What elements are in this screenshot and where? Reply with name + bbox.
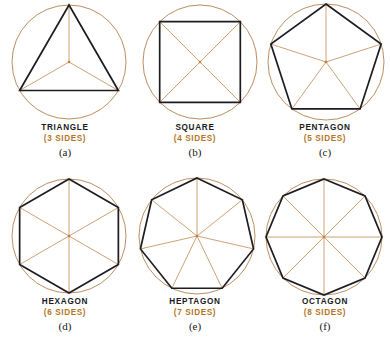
radius-line <box>283 237 324 278</box>
polygon-sides-label: (4 SIDES) <box>174 135 216 144</box>
panel-letter-label: (d) <box>42 321 88 333</box>
polygon-diagram-hexagon <box>0 174 130 299</box>
polygon-name-label: HEXAGON <box>42 298 88 307</box>
panel-letter-label: (c) <box>299 147 350 159</box>
polygon-panel-hexagon: HEXAGON(6 SIDES)(d) <box>0 174 130 348</box>
polygon-sides-label: (3 SIDES) <box>41 135 88 144</box>
center-point <box>68 235 71 238</box>
radius-line <box>271 44 326 62</box>
radius-line <box>20 208 69 237</box>
panel-letter-label: (b) <box>174 147 216 159</box>
polygon-sides-label: (6 SIDES) <box>42 309 88 318</box>
radius-line <box>197 200 242 236</box>
center-point <box>68 61 71 64</box>
polygon-panel-heptagon: HEPTAGON(7 SIDES)(e) <box>130 174 260 348</box>
center-point <box>325 61 328 64</box>
panel-letter-label: (f) <box>302 321 348 333</box>
radius-line <box>20 236 69 265</box>
polygon-caption-hexagon: HEXAGON(6 SIDES)(d) <box>42 298 88 333</box>
polygon-panel-pentagon: PENTAGON(5 SIDES)(c) <box>260 0 390 174</box>
polygon-diagram-square <box>130 0 260 125</box>
radius-line <box>326 62 360 109</box>
polygon-panel-square: SQUARE(4 SIDES)(b) <box>130 0 260 174</box>
radius-line <box>324 196 365 237</box>
radius-line <box>140 236 197 249</box>
panel-letter-label: (a) <box>41 147 88 159</box>
radius-line <box>160 62 200 102</box>
polygon-sides-label: (5 SIDES) <box>299 135 350 144</box>
polygon-name-label: TRIANGLE <box>41 124 88 133</box>
polygon-panel-triangle: TRIANGLE(3 SIDES)(a) <box>0 0 130 174</box>
polygon-diagram-triangle <box>0 0 130 125</box>
polygon-panel-octagon: OCTAGON(8 SIDES)(f) <box>260 174 390 348</box>
radius-line <box>283 196 324 237</box>
radius-line <box>69 236 118 265</box>
polygon-caption-pentagon: PENTAGON(5 SIDES)(c) <box>299 124 350 159</box>
radius-line <box>152 200 197 236</box>
radius-line <box>197 236 254 249</box>
polygon-diagram-pentagon <box>260 0 390 125</box>
polygon-diagram-heptagon <box>130 174 260 299</box>
center-point <box>323 236 326 239</box>
radius-line <box>197 236 222 288</box>
radius-line <box>172 236 197 288</box>
polygon-caption-triangle: TRIANGLE(3 SIDES)(a) <box>41 124 88 159</box>
polygon-caption-square: SQUARE(4 SIDES)(b) <box>174 124 216 159</box>
radius-line <box>200 22 240 62</box>
radius-line <box>292 62 326 109</box>
center-point <box>199 61 202 64</box>
radius-line <box>160 22 200 62</box>
polygon-figure-grid: TRIANGLE(3 SIDES)(a)SQUARE(4 SIDES)(b)PE… <box>0 0 390 356</box>
polygon-name-label: PENTAGON <box>299 124 350 133</box>
panel-letter-label: (e) <box>169 321 220 333</box>
radius-line <box>324 237 365 278</box>
radius-line <box>200 62 240 102</box>
radius-line <box>69 208 118 237</box>
polygon-name-label: OCTAGON <box>302 298 348 307</box>
center-point <box>196 235 199 238</box>
polygon-name-label: SQUARE <box>174 124 216 133</box>
polygon-name-label: HEPTAGON <box>169 298 220 307</box>
polygon-caption-heptagon: HEPTAGON(7 SIDES)(e) <box>169 298 220 333</box>
polygon-sides-label: (8 SIDES) <box>302 309 348 318</box>
polygon-caption-octagon: OCTAGON(8 SIDES)(f) <box>302 298 348 333</box>
polygon-sides-label: (7 SIDES) <box>169 309 220 318</box>
polygon-diagram-octagon <box>260 174 390 299</box>
radius-line <box>326 44 381 62</box>
